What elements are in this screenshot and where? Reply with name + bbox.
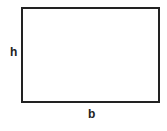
rectangle-shape	[21, 7, 160, 103]
base-label: b	[88, 108, 95, 120]
height-label: h	[10, 46, 17, 58]
